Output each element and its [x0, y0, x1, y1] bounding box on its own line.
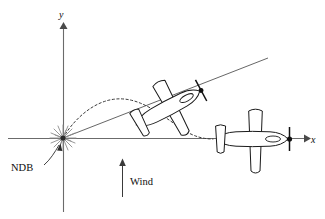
x-axis-label: x — [310, 134, 316, 145]
aircraft-stabilizer — [216, 125, 226, 154]
ndb-station-marker — [50, 125, 76, 151]
aircraft-prop-hub — [287, 136, 292, 141]
wind-arrow-head-icon — [119, 159, 126, 167]
aircraft-middle — [123, 65, 218, 154]
x-axis-arrow-icon — [304, 135, 311, 143]
ndb-homing-diagram: x y — [0, 0, 325, 219]
aircraft-cockpit — [266, 136, 281, 142]
diagram-canvas: x y — [0, 0, 325, 219]
y-axis-arrow-icon — [60, 22, 68, 29]
wind-label: Wind — [130, 176, 154, 187]
aircraft-right — [216, 109, 293, 173]
ndb-label: NDB — [11, 162, 33, 173]
starburst-icon — [50, 125, 76, 151]
y-axis-label: y — [58, 9, 64, 20]
ndb-leader-line — [44, 145, 59, 165]
ndb-callout: NDB — [11, 144, 62, 174]
wind-annotation: Wind — [119, 159, 153, 198]
